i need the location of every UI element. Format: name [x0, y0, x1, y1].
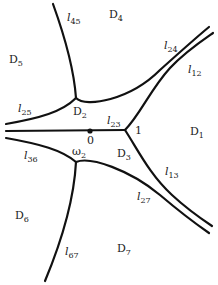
region-label-d7: D7 [117, 243, 131, 257]
curve-l67 [45, 162, 76, 281]
point-label-omega2: ω2 [72, 146, 86, 160]
curve-label-l13: l13 [165, 166, 179, 180]
curve-l23 [6, 130, 125, 131]
curve-label-l12: l12 [188, 64, 202, 78]
curve-label-l45: l45 [67, 12, 81, 26]
region-label-d3: D3 [117, 148, 131, 162]
point-label-0: 0 [87, 135, 94, 146]
region-label-d2: D2 [73, 106, 87, 120]
origin-point [87, 128, 92, 133]
curve-label-l36: l36 [24, 150, 38, 164]
region-label-d4: D4 [109, 9, 123, 23]
region-label-d6: D6 [15, 210, 29, 224]
region-label-d1: D1 [190, 126, 204, 140]
region-label-d5: D5 [9, 54, 23, 68]
curve-label-l23: l23 [107, 115, 121, 129]
curve-label-l27: l27 [137, 191, 151, 205]
curve-l25 [6, 98, 76, 124]
curve-label-l24: l24 [164, 40, 178, 54]
curve-label-l25: l25 [18, 103, 32, 117]
curve-label-l67: l67 [65, 246, 79, 260]
point-label-1: 1 [135, 125, 142, 136]
curve-l36 [6, 138, 76, 162]
curve-diagram [0, 0, 218, 285]
